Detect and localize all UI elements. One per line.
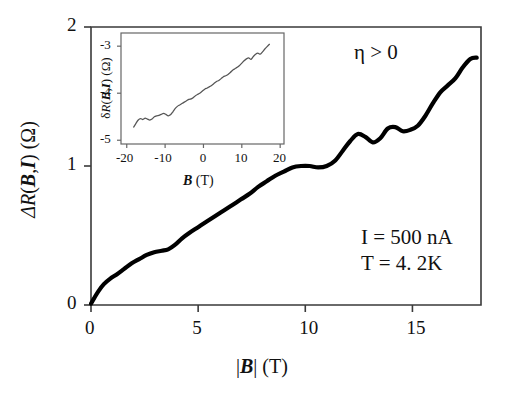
inset-x-tick-3: 10 bbox=[235, 150, 248, 166]
figure-container: 051015 012 -20-1001020 -3-4-5 ΔR(B,I) (Ω… bbox=[0, 0, 508, 398]
main-x-tick-marks bbox=[91, 305, 412, 312]
inset-x-tick-0: -20 bbox=[116, 150, 133, 166]
inset-x-tick-2: 0 bbox=[200, 150, 207, 166]
inset-data-curve bbox=[134, 44, 270, 127]
y-tick-2: 2 bbox=[67, 14, 77, 36]
main-y-tick-marks bbox=[84, 27, 91, 305]
y-axis-title: ΔR(B,I) (Ω) bbox=[17, 85, 40, 255]
x-tick-5: 5 bbox=[192, 317, 202, 339]
x-axis-title: |B| (T) bbox=[236, 355, 288, 378]
inset-x-tick-4: 20 bbox=[273, 150, 286, 166]
inset-x-axis-title: B (T) bbox=[183, 173, 214, 189]
x-tick-10: 10 bbox=[299, 317, 318, 339]
x-tick-15: 15 bbox=[406, 317, 425, 339]
y-tick-0: 0 bbox=[67, 292, 77, 314]
plot-canvas bbox=[0, 0, 508, 398]
y-tick-1: 1 bbox=[67, 153, 77, 175]
annotation-current: I = 500 nA bbox=[361, 225, 453, 250]
inset-x-tick-marks bbox=[127, 144, 280, 148]
inset-axes-frame bbox=[121, 33, 284, 144]
annotation-eta: η > 0 bbox=[354, 40, 398, 65]
annotation-temperature: T = 4. 2K bbox=[361, 251, 442, 276]
x-tick-0: 0 bbox=[85, 317, 95, 339]
inset-x-tick-1: -10 bbox=[154, 150, 171, 166]
inset-y-axis-title: δR(B,I) (Ω) bbox=[98, 32, 114, 144]
